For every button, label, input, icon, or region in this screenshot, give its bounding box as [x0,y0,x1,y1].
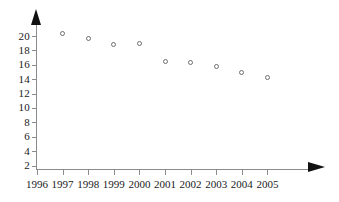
y-axis-tick [32,79,37,80]
data-point [137,41,142,46]
x-axis-tick [165,170,166,175]
y-axis-tick [32,108,37,109]
x-axis-arrow-icon [308,162,325,172]
y-axis-tick-label: 18 [19,45,30,56]
y-axis-tick [32,166,37,167]
y-axis-tick [32,137,37,138]
y-axis-tick-label: 4 [24,146,30,157]
y-axis-tick [32,50,37,51]
scatter-chart: 2468101214161820 19961997199819992000200… [0,0,339,202]
x-axis-tick [267,170,268,175]
x-axis-tick [63,170,64,175]
y-axis-tick-label: 10 [19,102,30,113]
data-point [239,70,244,75]
x-axis-tick [216,170,217,175]
y-axis-arrow-icon [31,9,41,25]
x-axis-tick [242,170,243,175]
x-axis-tick-label: 2005 [250,178,284,190]
data-point [86,36,91,41]
y-axis-tick [32,94,37,95]
data-point [214,64,219,69]
data-point [111,42,116,47]
data-point [188,60,193,65]
x-axis-line [36,169,310,170]
y-axis-tick-label: 12 [19,88,30,99]
x-axis-tick [139,170,140,175]
data-point [163,59,168,64]
x-axis-tick [88,170,89,175]
y-axis-tick [32,151,37,152]
data-point [265,75,270,80]
x-axis-tick [37,170,38,175]
y-axis-tick-label: 8 [24,117,30,128]
y-axis-tick-label: 20 [19,31,30,42]
y-axis-line [36,22,37,170]
x-axis-tick [114,170,115,175]
y-axis-tick [32,65,37,66]
x-axis-tick [191,170,192,175]
y-axis-tick-label: 2 [24,160,30,171]
data-point [60,31,65,36]
y-axis-tick-label: 6 [24,131,30,142]
y-axis-tick [32,36,37,37]
y-axis-tick-label: 14 [19,74,30,85]
y-axis-tick-label: 16 [19,59,30,70]
y-axis-tick [32,122,37,123]
